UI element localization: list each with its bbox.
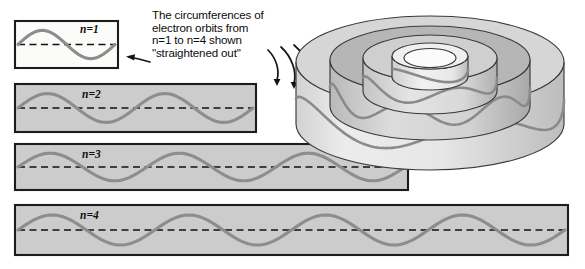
arrow-head-left-icon — [126, 54, 135, 60]
caption-line-4: "straightened out" — [152, 46, 241, 59]
cylinder-center-hole — [404, 49, 456, 68]
caption-line-3: n=1 to n=4 shown — [152, 33, 242, 46]
panel-label-n2: n=2 — [82, 88, 101, 100]
panel-n1: n=1 — [15, 21, 118, 68]
orbit-cylinder-diagram — [296, 16, 564, 170]
figure-canvas: n=1n=2n=3n=4The circumferences ofelectro… — [0, 0, 585, 269]
panel-label-n4: n=4 — [80, 209, 99, 221]
panel-label-n3: n=3 — [82, 148, 101, 160]
caption-line-1: The circumferences of — [152, 8, 264, 21]
panel-n4: n=4 — [15, 205, 568, 255]
curved-arrow-2 — [281, 47, 295, 83]
panel-n2: n=2 — [15, 84, 256, 132]
caption-line-2: electron orbits from — [152, 21, 248, 34]
curved-arrow-1 — [268, 50, 278, 80]
diagram-svg: n=1n=2n=3n=4The circumferences ofelectro… — [0, 0, 585, 269]
caption-block: The circumferences ofelectron orbits fro… — [152, 8, 264, 59]
panel-label-n1: n=1 — [80, 23, 99, 35]
curved-arrow-head-1-icon — [274, 79, 281, 86]
